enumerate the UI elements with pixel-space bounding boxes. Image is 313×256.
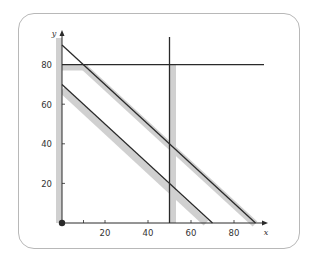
x-tick-label: 20 — [100, 228, 111, 238]
x-tick-label: 80 — [229, 228, 240, 238]
y-axis-label: y — [51, 29, 57, 38]
x-tick-label: 40 — [143, 228, 154, 238]
line-x-plus-y-90 — [62, 45, 256, 223]
x-tick-label: 60 — [186, 228, 197, 238]
y-tick-label: 20 — [41, 179, 52, 189]
x-axis-label: x — [264, 228, 269, 237]
y-tick-label: 60 — [41, 100, 52, 110]
y-tick-label: 80 — [41, 60, 52, 70]
line-x-plus-y-70 — [62, 84, 213, 223]
axes — [59, 30, 268, 226]
constraint-lines — [62, 37, 264, 223]
y-tick-label: 40 — [41, 139, 52, 149]
x-axis-arrow-icon — [262, 221, 268, 226]
chart-plot: 20 40 60 80 20 40 60 80 x y — [0, 0, 313, 256]
origin-point — [59, 220, 65, 226]
y-axis-arrow-icon — [60, 30, 65, 36]
